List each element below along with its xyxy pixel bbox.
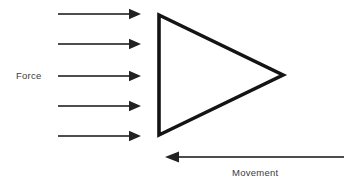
arrow-shaft <box>179 156 344 158</box>
force-movement-diagram: Force Movement <box>0 0 348 185</box>
arrow-shaft <box>58 105 130 107</box>
arrow-shaft <box>58 43 130 45</box>
arrow-shaft <box>58 13 130 15</box>
force-label: Force <box>16 70 42 81</box>
arrow-shaft <box>58 75 130 77</box>
diagram-canvas: Force Movement <box>0 0 348 185</box>
movement-label: Movement <box>232 167 278 178</box>
arrow-shaft <box>58 135 130 137</box>
